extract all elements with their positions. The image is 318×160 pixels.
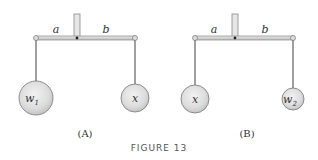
panel-a: a b w1 x (A) bbox=[19, 14, 149, 139]
arm-label-b: b bbox=[261, 23, 268, 36]
panel-label-a: (A) bbox=[77, 128, 92, 139]
figure-caption: FIGURE 13 bbox=[131, 143, 188, 153]
left-hinge bbox=[34, 36, 39, 41]
balance-rod bbox=[195, 36, 294, 40]
arm-label-b: b bbox=[102, 23, 109, 36]
panel-label-b: (B) bbox=[239, 128, 254, 139]
panel-b: a b x w2 (B) bbox=[181, 14, 304, 139]
pivot-point bbox=[234, 37, 237, 40]
weight-label-x: x bbox=[132, 92, 139, 105]
balance-rod bbox=[36, 36, 135, 40]
pivot-post bbox=[232, 14, 238, 39]
arm-label-a: a bbox=[53, 23, 60, 36]
right-hinge bbox=[291, 36, 296, 41]
pivot-point bbox=[76, 37, 79, 40]
pivot-post bbox=[74, 14, 80, 39]
figure-canvas: a b w1 x (A) a b x w2 (B) FIGURE 13 bbox=[0, 0, 318, 160]
weight-label-x: x bbox=[192, 93, 199, 106]
arm-label-a: a bbox=[211, 23, 218, 36]
right-hinge bbox=[133, 36, 138, 41]
left-hinge bbox=[193, 36, 198, 41]
